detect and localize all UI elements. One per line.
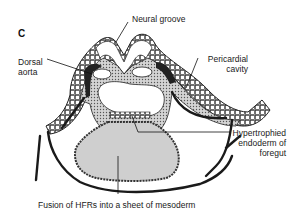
- label-hyper-line1: Hypertrophied: [224, 128, 286, 138]
- label-dorsal-aorta-line1: Dorsal: [18, 57, 43, 67]
- label-hyper-line3: foregut: [224, 148, 286, 158]
- dorsal-aorta-lumen-right: [132, 67, 152, 77]
- panel-letter: C: [18, 28, 25, 39]
- label-pericardial-line2: cavity: [198, 64, 248, 74]
- label-neural-groove: Neural groove: [132, 14, 185, 24]
- label-dorsal-aorta: Dorsal aorta: [18, 57, 43, 77]
- foregut-endoderm-cells: [110, 112, 150, 118]
- label-fusion-hfrs: Fusion of HFRs into a sheet of mesoderm: [38, 200, 195, 210]
- label-pericardial-line1: Pericardial: [198, 54, 248, 64]
- mesoderm-sheet: [75, 122, 179, 181]
- embryo-cross-section-diagram: [0, 0, 299, 217]
- label-dorsal-aorta-line2: aorta: [18, 67, 43, 77]
- label-pericardial-cavity: Pericardial cavity: [198, 54, 248, 74]
- label-hyper-line2: endoderm of: [224, 138, 286, 148]
- label-hypertrophied-endoderm: Hypertrophied endoderm of foregut: [224, 128, 286, 158]
- dorsal-aorta-lumen-left: [93, 69, 111, 79]
